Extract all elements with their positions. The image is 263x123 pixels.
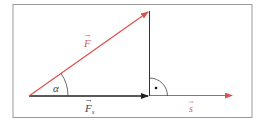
force-decomposition-diagram: F → α Fs → s → <box>0 0 263 123</box>
right-angle-dot <box>155 87 158 90</box>
diagram-frame <box>13 5 252 118</box>
displacement-label-arrow: → <box>189 98 194 105</box>
angle-label: α <box>53 82 59 94</box>
force-component-label-arrow: → <box>86 97 92 105</box>
force-label-arrow: → <box>85 32 91 40</box>
